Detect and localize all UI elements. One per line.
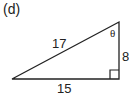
vertical-side-label: 8 bbox=[122, 50, 129, 63]
angle-theta-label: θ bbox=[110, 27, 115, 40]
right-angle-marker bbox=[110, 70, 119, 79]
hypotenuse-label: 17 bbox=[52, 37, 66, 50]
horizontal-side-label: 15 bbox=[57, 82, 71, 95]
